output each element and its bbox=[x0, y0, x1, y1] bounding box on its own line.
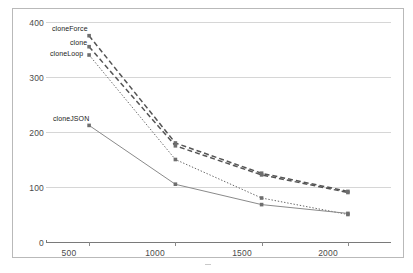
data-point-clone-500 bbox=[87, 45, 91, 49]
y-axis: 400 300 200 100 0 bbox=[0, 0, 44, 220]
y-axis-origin-tick bbox=[46, 240, 47, 243]
y-tick-400: 400 bbox=[10, 18, 44, 28]
x-tick-1500: 1500 bbox=[222, 248, 262, 258]
series-label-cloneLoop: cloneLoop bbox=[50, 50, 83, 57]
x-tick-mark-2000 bbox=[348, 242, 349, 246]
data-point-clone-2000 bbox=[346, 191, 350, 195]
plot-area bbox=[46, 22, 391, 242]
x-tick-mark-1000 bbox=[175, 242, 176, 246]
series-line-cloneForce bbox=[89, 36, 348, 192]
y-tick-300: 300 bbox=[10, 73, 44, 83]
series-line-cloneJSON bbox=[89, 125, 348, 213]
x-tick-2000: 2000 bbox=[308, 248, 348, 258]
data-point-clone-1500 bbox=[260, 173, 264, 177]
x-tick-500: 500 bbox=[49, 248, 89, 258]
y-tick-200: 200 bbox=[10, 128, 44, 138]
data-point-cloneForce-500 bbox=[87, 34, 91, 38]
series-line-cloneLoop bbox=[89, 55, 348, 215]
series-label-cloneForce: cloneForce bbox=[52, 25, 88, 32]
x-axis-line bbox=[46, 242, 391, 243]
chart-root: 400 300 200 100 0 500 1000 1500 2000 clo… bbox=[0, 0, 413, 273]
y-tick-0: 0 bbox=[10, 238, 44, 248]
y-tick-100: 100 bbox=[10, 183, 44, 193]
data-point-clone-1000 bbox=[174, 144, 178, 148]
data-point-cloneJSON-1500 bbox=[260, 203, 264, 207]
series-label-clone: clone bbox=[70, 39, 87, 46]
series-label-cloneJSON: cloneJSON bbox=[53, 115, 89, 122]
data-point-cloneJSON-500 bbox=[87, 124, 91, 128]
data-point-cloneJSON-2000 bbox=[346, 212, 350, 216]
bottom-axis-mark bbox=[205, 264, 211, 265]
x-tick-mark-1500 bbox=[262, 242, 263, 246]
data-point-cloneLoop-500 bbox=[87, 53, 91, 57]
data-point-cloneJSON-1000 bbox=[174, 182, 178, 186]
series-line-clone bbox=[89, 47, 348, 193]
data-point-cloneLoop-1000 bbox=[174, 158, 178, 162]
x-tick-1000: 1000 bbox=[135, 248, 175, 258]
series-layer bbox=[46, 22, 391, 242]
x-tick-mark-500 bbox=[89, 242, 90, 246]
data-point-cloneLoop-1500 bbox=[260, 196, 264, 200]
